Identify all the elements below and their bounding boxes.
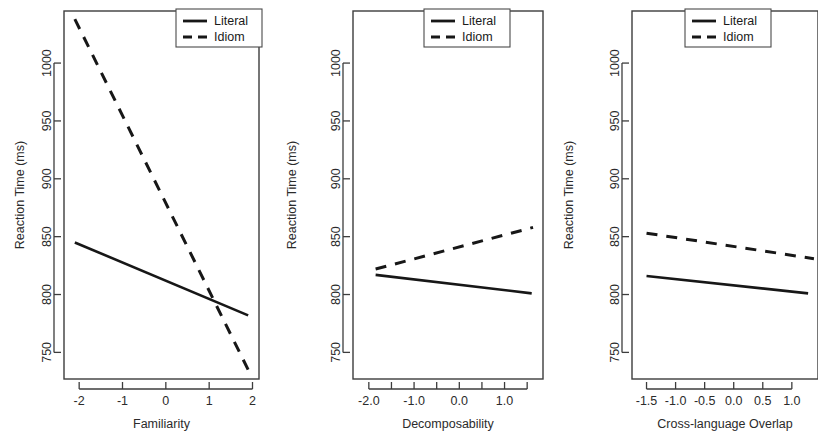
x-tick-label--1: -1 <box>117 394 128 408</box>
legend-label-idiom: Idiom <box>723 30 754 44</box>
x-tick-label-1: 1.0 <box>496 394 513 408</box>
x-tick-label-0: 0.0 <box>725 394 742 408</box>
legend-label-literal: Literal <box>723 14 757 28</box>
x-tick-label-2: 2 <box>249 394 256 408</box>
legend: LiteralIdiom <box>685 9 771 47</box>
y-tick-label-1000: 1000 <box>608 49 622 77</box>
y-tick-label-850: 850 <box>608 226 622 247</box>
x-tick-label--1: -1.0 <box>403 394 425 408</box>
panel-plot-area-0: 7508008509009501000Reaction Time (ms)-2-… <box>0 0 272 439</box>
series-line-idiom <box>376 227 533 269</box>
legend: LiteralIdiom <box>176 9 262 47</box>
panel-plot-area-2: 7508008509009501000Reaction Time (ms)-1.… <box>545 0 818 439</box>
y-tick-label-1000: 1000 <box>40 49 54 77</box>
y-tick-label-850: 850 <box>40 226 54 247</box>
series-line-literal <box>647 276 809 293</box>
y-tick-label-950: 950 <box>608 110 622 131</box>
y-tick-label-900: 900 <box>608 168 622 189</box>
panel-plot-area-1: 7508008509009501000Reaction Time (ms)-2.… <box>272 0 545 439</box>
x-axis-title: Decomposability <box>402 417 494 431</box>
plot-frame <box>64 11 259 379</box>
panel-decomposability: 7508008509009501000Reaction Time (ms)-2.… <box>272 0 545 439</box>
x-tick-label--2: -2.0 <box>358 394 380 408</box>
y-tick-label-800: 800 <box>329 284 343 305</box>
series-line-literal <box>75 242 248 315</box>
y-tick-label-750: 750 <box>329 342 343 363</box>
x-axis-title: Cross-language Overlap <box>657 417 793 431</box>
legend-label-idiom: Idiom <box>214 30 245 44</box>
x-tick-label-1: 1.0 <box>783 394 800 408</box>
y-tick-label-900: 900 <box>329 168 343 189</box>
x-tick-label-0: 0 <box>162 394 169 408</box>
y-tick-label-800: 800 <box>40 284 54 305</box>
y-tick-label-750: 750 <box>608 342 622 363</box>
y-tick-label-950: 950 <box>40 110 54 131</box>
y-tick-label-800: 800 <box>608 284 622 305</box>
x-tick-label--1: -1.0 <box>665 394 687 408</box>
y-tick-label-900: 900 <box>40 168 54 189</box>
x-tick-label-0.5: 0.5 <box>754 394 771 408</box>
series-group <box>376 227 533 293</box>
multi-panel-figure: 7508008509009501000Reaction Time (ms)-2-… <box>0 0 818 439</box>
legend-label-idiom: Idiom <box>462 30 493 44</box>
x-tick-label--0.5: -0.5 <box>694 394 716 408</box>
series-group <box>647 233 814 293</box>
series-group <box>75 19 248 370</box>
x-tick-label-1: 1 <box>206 394 213 408</box>
y-tick-label-750: 750 <box>40 342 54 363</box>
y-axis-title: Reaction Time (ms) <box>562 141 576 249</box>
panel-familiarity: 7508008509009501000Reaction Time (ms)-2-… <box>0 0 272 439</box>
plot-frame <box>632 11 818 379</box>
x-tick-label--1.5: -1.5 <box>636 394 658 408</box>
series-line-idiom <box>75 19 248 370</box>
x-tick-label-0: 0.0 <box>451 394 468 408</box>
y-tick-label-950: 950 <box>329 110 343 131</box>
y-tick-label-1000: 1000 <box>329 49 343 77</box>
legend: LiteralIdiom <box>424 9 510 47</box>
series-line-literal <box>376 275 532 294</box>
y-axis-title: Reaction Time (ms) <box>285 141 299 249</box>
panel-cross-language-overlap: 7508008509009501000Reaction Time (ms)-1.… <box>545 0 818 439</box>
y-axis-title: Reaction Time (ms) <box>13 141 27 249</box>
legend-label-literal: Literal <box>214 14 248 28</box>
legend-label-literal: Literal <box>462 14 496 28</box>
y-tick-label-850: 850 <box>329 226 343 247</box>
x-axis-title: Familiarity <box>133 417 191 431</box>
x-tick-label--2: -2 <box>74 394 85 408</box>
series-line-idiom <box>647 233 814 258</box>
plot-frame <box>353 11 543 379</box>
